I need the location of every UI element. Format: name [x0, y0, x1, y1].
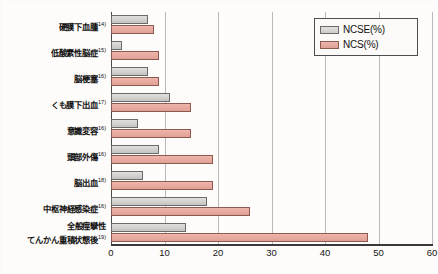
x-tick-label-20: 20 — [213, 247, 224, 258]
bar-ncse — [111, 197, 207, 206]
category-ref: 17) — [98, 99, 106, 105]
gridline-60 — [432, 12, 433, 245]
category-label: 頭部外傷16) — [67, 149, 107, 162]
bar-ncs — [111, 51, 159, 60]
category-label-line1: 全般痙攣性 — [27, 221, 106, 232]
bar-group — [111, 141, 432, 167]
bar-ncs — [111, 129, 191, 138]
legend-label-ncse: NCSE(%) — [343, 24, 385, 35]
x-tick-label-40: 40 — [320, 247, 331, 258]
category-ref: 19) — [98, 234, 106, 240]
x-tick-label-10: 10 — [159, 247, 170, 258]
category-label: 硬膜下血腫14) — [59, 19, 106, 32]
category-ref: 16) — [98, 125, 106, 131]
bar-ncs — [111, 155, 213, 164]
legend-swatch-ncse — [320, 26, 339, 34]
category-label: 中枢神経感染症16) — [43, 201, 106, 214]
bar-ncse — [111, 67, 148, 76]
legend-item-ncse: NCSE(%) — [320, 22, 413, 37]
x-tick-label-50: 50 — [373, 247, 384, 258]
x-tick-label-30: 30 — [266, 247, 277, 258]
bar-ncse — [111, 171, 143, 180]
x-axis-line — [111, 244, 433, 246]
category-label: 脳出血18) — [74, 175, 106, 188]
category-ref: 15) — [98, 47, 106, 53]
x-tick-label-0: 0 — [108, 247, 113, 258]
bar-ncse — [111, 119, 138, 128]
chart-legend: NCSE(%) NCS(%) — [314, 18, 418, 56]
bar-ncse — [111, 223, 186, 232]
category-axis-labels: 硬膜下血腫14)低酸素性脳症15)脳梗塞16)くも膜下出血17)意識変容16)頭… — [0, 0, 108, 274]
category-label-line2: てんかん重積状態後19) — [27, 232, 106, 245]
bar-ncse — [111, 15, 148, 24]
bar-ncs — [111, 103, 191, 112]
category-ref: 16) — [98, 73, 106, 79]
bar-ncse — [111, 93, 170, 102]
bar-ncs — [111, 233, 368, 242]
bar-ncse — [111, 145, 159, 154]
bar-ncs — [111, 25, 154, 34]
bar-group — [111, 116, 432, 142]
bar-group — [111, 64, 432, 90]
category-label: 低酸素性脳症15) — [51, 45, 106, 58]
category-label: 意識変容16) — [67, 123, 107, 136]
legend-item-ncs: NCS(%) — [320, 37, 413, 52]
category-ref: 18) — [98, 177, 106, 183]
legend-swatch-ncs — [320, 41, 339, 49]
x-tick-label-60: 60 — [427, 247, 438, 258]
category-ref: 16) — [98, 151, 106, 157]
horizontal-bar-chart: 硬膜下血腫14)低酸素性脳症15)脳梗塞16)くも膜下出血17)意識変容16)頭… — [0, 0, 438, 274]
legend-label-ncs: NCS(%) — [343, 39, 378, 50]
bar-ncs — [111, 207, 250, 216]
bar-ncs — [111, 77, 159, 86]
bar-group — [111, 90, 432, 116]
category-label: 全般痙攣性てんかん重積状態後19) — [27, 221, 106, 245]
category-ref: 16) — [98, 203, 106, 209]
bar-ncse — [111, 41, 122, 50]
x-axis-tick-labels: 0102030405060 — [111, 247, 433, 263]
bar-group — [111, 167, 432, 193]
category-label: 脳梗塞16) — [74, 71, 106, 84]
category-label: くも膜下出血17) — [51, 97, 106, 110]
bar-group — [111, 219, 432, 245]
bar-ncs — [111, 181, 213, 190]
bar-group — [111, 193, 432, 219]
category-ref: 14) — [98, 21, 106, 27]
